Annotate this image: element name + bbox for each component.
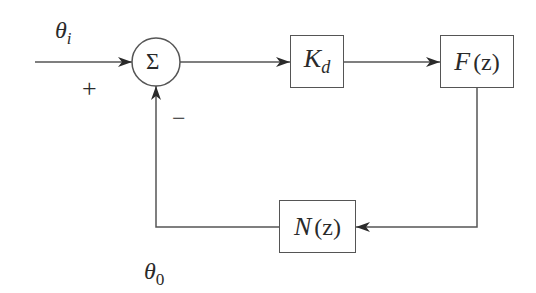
input-signal-label: θi [55, 18, 71, 48]
output-signal-subscript: 0 [156, 270, 165, 289]
plus-sign: + [82, 76, 97, 102]
output-signal-label: θ0 [144, 259, 164, 288]
n-block-label: N(z) [294, 212, 341, 242]
minus-sign: − [172, 106, 186, 130]
f-block-label: F(z) [454, 47, 500, 77]
kd-block-label: Kd [304, 44, 330, 78]
sigma-symbol: Σ [146, 50, 159, 73]
f-block: F(z) [440, 35, 514, 88]
input-signal-symbol: θ [55, 17, 67, 43]
f-to-n-wire [356, 88, 477, 227]
input-signal-subscript: i [67, 29, 72, 48]
kd-block: Kd [290, 35, 344, 88]
n-block: N(z) [279, 200, 356, 253]
output-signal-symbol: θ [144, 258, 156, 284]
